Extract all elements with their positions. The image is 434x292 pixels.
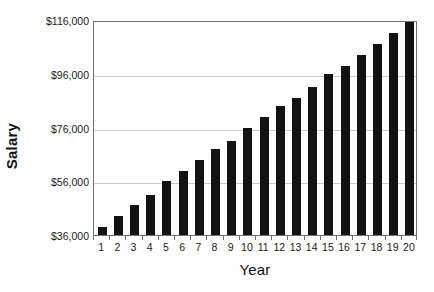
y-axis-tick-label: $116,000 [19,15,89,27]
x-axis-tick-mark [271,236,272,240]
bar [405,21,414,235]
bar [324,74,333,235]
bar [130,205,139,235]
x-axis-tick-mark [401,236,402,240]
x-axis-title: Year [93,261,417,278]
x-axis-tick-mark [416,236,417,240]
bar [146,195,155,235]
x-axis-tick-mark [239,236,240,240]
x-axis-tick-mark [125,236,126,240]
x-axis-tick-mark [109,236,110,240]
bar [260,117,269,235]
y-axis-tick-label: $56,000 [19,176,89,188]
y-axis-tick-label: $76,000 [19,123,89,135]
x-axis-tick-mark [223,236,224,240]
x-axis-tick-mark [174,236,175,240]
x-axis-tick-mark [352,236,353,240]
bar [341,66,350,235]
x-axis-tick-mark [142,236,143,240]
x-axis-tick-mark [320,236,321,240]
bar-series [94,22,416,235]
bar [373,44,382,235]
bar [308,87,317,235]
bar [243,128,252,236]
x-axis-tick-mark [287,236,288,240]
x-axis-tick-mark [255,236,256,240]
bar [179,171,188,236]
bar [114,216,123,235]
plot-area [93,21,417,236]
salary-by-year-bar-chart: Salary $36,000$56,000$76,000$96,000$116,… [0,0,434,292]
y-axis-tick-label: $96,000 [19,69,89,81]
bar [162,181,171,235]
bar [357,55,366,235]
bar [195,160,204,235]
bar [227,141,236,235]
x-axis-tick-mark [336,236,337,240]
bar [211,149,220,235]
y-axis-tick-labels: $36,000$56,000$76,000$96,000$116,000 [19,0,89,292]
bar [292,98,301,235]
x-axis-tick-mark [304,236,305,240]
bar [276,106,285,235]
x-axis-tick-mark [385,236,386,240]
x-axis-tick-mark [368,236,369,240]
x-axis-tick-mark [158,236,159,240]
bar [98,227,107,235]
x-axis-tick-mark [206,236,207,240]
bar [389,33,398,235]
x-axis-tick-mark [190,236,191,240]
x-axis-tick-labels: 1234567891011121314151617181920 [93,241,417,257]
x-axis-tick-label: 20 [397,241,421,253]
x-axis-tick-mark [93,236,94,240]
y-axis-tick-label: $36,000 [19,230,89,242]
